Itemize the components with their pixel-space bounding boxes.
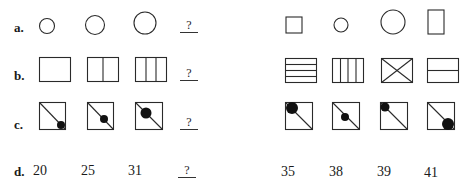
tall-rectangle-icon bbox=[428, 10, 444, 34]
large-dot-icon bbox=[286, 102, 298, 114]
medium-dot-icon bbox=[381, 103, 390, 112]
large-dot-icon bbox=[141, 108, 152, 119]
rectangle-with-x-icon bbox=[382, 59, 413, 83]
medium-dot-icon bbox=[100, 115, 108, 123]
rectangle-4-horizontal-strips-icon bbox=[286, 59, 317, 83]
square-diagonal-dot-icon bbox=[88, 103, 114, 130]
small-dot-icon bbox=[57, 121, 65, 129]
small-circle-icon bbox=[334, 18, 348, 32]
small-circle-icon bbox=[40, 19, 55, 34]
rectangle-1-section-icon bbox=[40, 58, 71, 82]
small-square-icon bbox=[286, 17, 302, 33]
large-circle-icon bbox=[134, 12, 156, 34]
rectangle-2-horizontal-strips-icon bbox=[428, 59, 459, 83]
medium-dot-icon bbox=[341, 113, 349, 121]
large-circle-icon bbox=[381, 10, 405, 34]
large-dot-icon bbox=[442, 118, 454, 130]
medium-circle-icon bbox=[86, 16, 105, 35]
rectangle-2-sections-icon bbox=[88, 58, 119, 82]
puzzle-figures bbox=[0, 0, 467, 186]
rectangle-3-sections-icon bbox=[136, 58, 167, 82]
rectangle-4-vertical-columns-icon bbox=[333, 59, 364, 83]
